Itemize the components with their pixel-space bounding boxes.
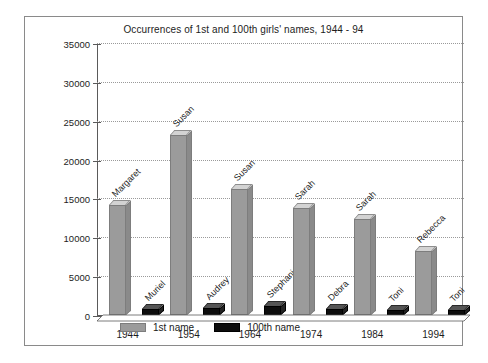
- x-tick-mark: [219, 315, 220, 321]
- x-tick-mark: [342, 315, 343, 321]
- bar: Debra: [326, 309, 343, 315]
- legend-label-1st-name: 1st name: [153, 322, 194, 333]
- bar-group: RebeccaToni: [403, 43, 464, 315]
- legend-item-100th-name: 100th name: [214, 322, 300, 333]
- bar-top: [293, 203, 315, 208]
- bar-face: [326, 309, 343, 315]
- bar: Muriel: [142, 309, 159, 315]
- chart-title: Occurrences of 1st and 100th girls' name…: [25, 24, 462, 35]
- bar-face: [293, 208, 310, 315]
- bar: Margaret: [109, 205, 126, 315]
- bar-face: [109, 205, 126, 315]
- bar-value-label: Rebecca: [415, 213, 447, 245]
- bar-value-label: Sarah: [293, 178, 317, 202]
- bar-face: [415, 251, 432, 315]
- bar-group: MargaretMuriel: [97, 43, 158, 315]
- legend-swatch-100th-name: [214, 323, 240, 332]
- bar-side: [371, 215, 376, 315]
- y-tick-mark: [93, 316, 101, 317]
- bar-face: [354, 219, 371, 315]
- bar: Toni: [448, 310, 465, 315]
- y-tick-label: 10000: [64, 233, 90, 244]
- x-tick-label: 1974: [300, 329, 322, 340]
- y-tick-label: 5000: [69, 272, 90, 283]
- legend-label-100th-name: 100th name: [247, 322, 300, 333]
- bar: Rebecca: [415, 251, 432, 315]
- y-tick-label: 35000: [64, 39, 90, 50]
- chart-container: Occurrences of 1st and 100th girls' name…: [24, 16, 463, 346]
- plot-area: 05000100001500020000250003000035000 Marg…: [97, 43, 464, 315]
- bar-value-label: Susan: [171, 104, 196, 129]
- bar-face: [264, 306, 281, 315]
- bar-group: SusanStephanie: [219, 43, 280, 315]
- bar: Sarah: [293, 208, 310, 315]
- bar-side: [126, 200, 131, 315]
- bar-face: [170, 135, 187, 315]
- y-tick-label: 0: [85, 311, 90, 322]
- x-tick-mark: [281, 315, 282, 321]
- x-tick-label: 1994: [422, 329, 444, 340]
- y-tick-label: 25000: [64, 116, 90, 127]
- bar-face: [231, 189, 248, 315]
- bar: Susan: [231, 189, 248, 315]
- bar-face: [387, 310, 404, 315]
- y-tick-label: 30000: [64, 77, 90, 88]
- x-tick-mark: [158, 315, 159, 321]
- bar: Audrey: [203, 308, 220, 315]
- bar-group: SarahToni: [342, 43, 403, 315]
- bar: Susan: [170, 135, 187, 315]
- bar-value-label: Sarah: [354, 189, 378, 213]
- y-tick-label: 20000: [64, 155, 90, 166]
- bar-face: [203, 308, 220, 315]
- bar-value-label: Margaret: [109, 166, 142, 199]
- x-tick-label: 1984: [361, 329, 383, 340]
- y-tick-label: 15000: [64, 194, 90, 205]
- bar-side: [432, 247, 437, 315]
- x-tick-mark: [403, 315, 404, 321]
- bar-value-label: Susan: [232, 158, 257, 183]
- bar-face: [448, 310, 465, 315]
- bar-side: [248, 185, 253, 315]
- bar-side: [310, 203, 315, 315]
- legend-swatch-1st-name: [120, 323, 146, 332]
- bar-side: [187, 130, 192, 315]
- chart-legend: 1st name 100th name: [120, 322, 300, 333]
- bar-value-label: Toni: [448, 285, 467, 304]
- bar-face: [142, 309, 159, 315]
- bar-group: SusanAudrey: [158, 43, 219, 315]
- bar: Toni: [387, 310, 404, 315]
- legend-item-1st-name: 1st name: [120, 322, 194, 333]
- bar-group: SarahDebra: [281, 43, 342, 315]
- bar: Stephanie: [264, 306, 281, 315]
- bar: Sarah: [354, 219, 371, 315]
